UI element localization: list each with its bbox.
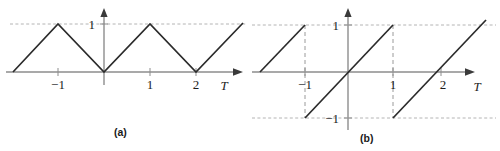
panel-b-chart: −1 1 2 1 −1 T xyxy=(250,0,500,151)
y-tick-label-1: 1 xyxy=(89,17,96,32)
x-tick-label-2: 2 xyxy=(440,77,447,92)
x-tick-label-minus-1: −1 xyxy=(51,77,65,92)
y-tick-label-minus-1: −1 xyxy=(325,111,339,126)
sawtooth-ramp-3 xyxy=(393,20,486,118)
x-axis-label: T xyxy=(220,78,228,93)
x-tick-label-1: 1 xyxy=(390,77,397,92)
x-tick-label-1: 1 xyxy=(147,77,154,92)
y-tick-label-1: 1 xyxy=(333,18,340,33)
x-tick-label-2: 2 xyxy=(193,77,200,92)
x-axis-arrowhead xyxy=(465,68,475,76)
y-axis-arrowhead xyxy=(100,8,107,17)
sawtooth-ramp-1 xyxy=(260,25,305,72)
x-axis-arrowhead xyxy=(233,68,243,76)
triangle-waveform xyxy=(13,23,243,72)
x-axis-label: T xyxy=(473,79,481,94)
panel-a-caption: (a) xyxy=(114,126,127,138)
x-tick-label-minus-1: −1 xyxy=(298,77,312,92)
panel-b-caption: (b) xyxy=(360,132,373,144)
y-axis-arrowhead xyxy=(344,8,351,17)
figure-container: −1 1 2 1 T −1 1 2 1 xyxy=(0,0,500,151)
